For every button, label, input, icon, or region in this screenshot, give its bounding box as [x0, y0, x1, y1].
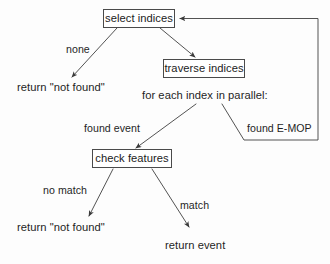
node-traverse-indices[interactable]: traverse indices: [163, 59, 245, 78]
node-traverse-indices-label: traverse indices: [164, 63, 243, 74]
edge-select-to-traverse: [160, 28, 195, 57]
text-return-not-found-bottom: return "not found": [17, 222, 105, 233]
node-check-features-label: check features: [95, 153, 168, 164]
node-check-features[interactable]: check features: [92, 149, 172, 168]
edge-label-none: none: [66, 44, 90, 55]
node-select-indices[interactable]: select indices: [103, 9, 175, 28]
flowchart-figure: select indices traverse indices check fe…: [0, 0, 330, 264]
edge-label-found-emop: found E-MOP: [247, 123, 312, 134]
edge-parallel-to-check: [136, 104, 196, 148]
caption-fragment: [0, 253, 330, 264]
node-select-indices-label: select indices: [105, 13, 173, 24]
edge-label-found-event: found event: [84, 123, 140, 134]
text-return-event: return event: [165, 240, 225, 251]
text-return-not-found-top: return "not found": [17, 82, 105, 93]
edge-label-no-match: no match: [43, 185, 87, 196]
edge-label-match: match: [180, 200, 209, 211]
edge-check-to-return-not-found: [89, 169, 113, 216]
text-for-each-index-in-parallel: for each index in parallel:: [142, 90, 268, 101]
edge-check-to-return-event: [152, 169, 189, 227]
